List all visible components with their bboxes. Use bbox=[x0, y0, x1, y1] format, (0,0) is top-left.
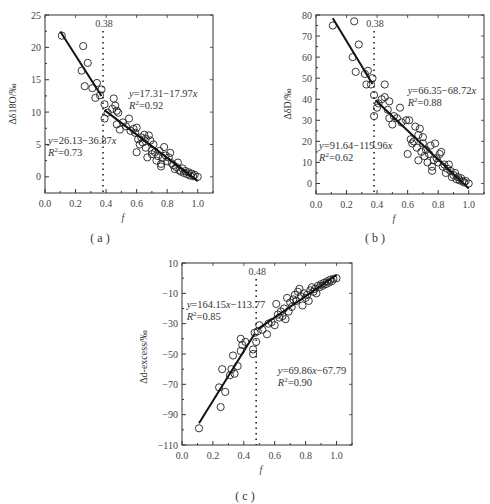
fit-equation: y=69.86x−67.79 bbox=[277, 365, 346, 376]
caption-b: ( b ) bbox=[365, 231, 385, 245]
fit-r-squared: R2=0.85 bbox=[186, 310, 221, 322]
fit-equation: y=17.31−17.97x bbox=[128, 88, 198, 99]
y-axis-label: ΔδD/‰ bbox=[282, 88, 293, 119]
chart-panel-b: 0.00.20.40.60.81.0f01020304050607080ΔδD/… bbox=[282, 10, 484, 225]
y-tick-label: 50 bbox=[302, 73, 312, 84]
x-tick-label: 0.4 bbox=[100, 198, 113, 209]
fit-line bbox=[105, 110, 198, 181]
x-tick-label: 0.8 bbox=[299, 450, 312, 461]
y-tick-label: 80 bbox=[302, 10, 312, 21]
y-tick-label: 10 bbox=[31, 107, 41, 118]
fit-line bbox=[258, 275, 337, 329]
y-tick-label: −50 bbox=[162, 349, 178, 360]
y-axis-label: Δδ18O/‰ bbox=[7, 83, 18, 124]
chart-panel-c: 0.00.20.40.60.81.0f−110−90−70−50−30−1010… bbox=[138, 258, 352, 476]
fit-r-squared: R2=0.92 bbox=[128, 99, 163, 111]
breakpoint-label: 0.38 bbox=[366, 18, 384, 29]
y-tick-label: 30 bbox=[302, 115, 312, 126]
y-tick-label: 25 bbox=[31, 10, 41, 21]
fit-equation: y=164.15x−113.77 bbox=[186, 299, 266, 310]
y-tick-label: 5 bbox=[36, 139, 41, 150]
x-tick-label: 0.2 bbox=[207, 450, 220, 461]
x-tick-label: 0.8 bbox=[432, 199, 445, 210]
x-tick-label: 0.6 bbox=[268, 450, 281, 461]
y-tick-label: 10 bbox=[168, 258, 178, 269]
x-tick-label: 1.0 bbox=[330, 450, 343, 461]
y-tick-label: −10 bbox=[162, 288, 178, 299]
y-tick-label: 0 bbox=[36, 171, 41, 182]
fit-equation: y=26.13−36.87x bbox=[47, 135, 117, 146]
breakpoint-label: 0.38 bbox=[95, 18, 113, 29]
y-axis: 01020304050607080ΔδD/‰ bbox=[282, 10, 484, 189]
figure-canvas: 0.00.20.40.60.81.0f0510152025Δδ18O/‰0.38… bbox=[0, 0, 490, 504]
y-axis-label: Δd-excess/‰ bbox=[138, 330, 149, 384]
y-tick-label: −90 bbox=[162, 409, 178, 420]
chart-panel-a: 0.00.20.40.60.81.0f0510152025Δδ18O/‰0.38… bbox=[7, 10, 213, 224]
x-tick-label: 1.0 bbox=[191, 198, 204, 209]
x-tick-label: 0.8 bbox=[161, 198, 174, 209]
y-tick-label: −70 bbox=[162, 379, 178, 390]
x-tick-label: 0.6 bbox=[130, 198, 143, 209]
breakpoint-label: 0.48 bbox=[248, 266, 266, 277]
x-tick-label: 0.0 bbox=[310, 199, 323, 210]
caption-c: ( c ) bbox=[235, 489, 254, 503]
fit-r-squared: R2=0.62 bbox=[318, 151, 353, 163]
fit-equation: y=66.35−68.72x bbox=[407, 85, 477, 96]
y-tick-label: 0 bbox=[307, 178, 312, 189]
x-tick-label: 0.2 bbox=[69, 198, 82, 209]
x-tick-label: 0.4 bbox=[238, 450, 251, 461]
y-tick-label: 60 bbox=[302, 52, 312, 63]
x-axis-label: f bbox=[122, 212, 126, 223]
x-tick-label: 0.6 bbox=[401, 199, 414, 210]
x-tick-label: 0.4 bbox=[371, 199, 384, 210]
plot-frame bbox=[182, 263, 352, 445]
x-tick-label: 0.2 bbox=[340, 199, 353, 210]
x-axis-label: f bbox=[260, 464, 264, 475]
y-tick-label: 70 bbox=[302, 31, 312, 42]
fit-r-squared: R2=0.73 bbox=[47, 146, 82, 158]
fit-line bbox=[199, 334, 255, 424]
x-tick-label: 0.0 bbox=[176, 450, 189, 461]
y-tick-label: 20 bbox=[31, 42, 41, 53]
x-tick-label: 1.0 bbox=[462, 199, 475, 210]
y-tick-label: −110 bbox=[158, 440, 178, 451]
y-tick-label: 40 bbox=[302, 94, 312, 105]
y-tick-label: −30 bbox=[162, 318, 178, 329]
y-tick-label: 20 bbox=[302, 136, 312, 147]
fit-r-squared: R2=0.90 bbox=[277, 376, 312, 388]
x-tick-label: 0.0 bbox=[39, 198, 52, 209]
fit-r-squared: R2=0.88 bbox=[407, 96, 442, 108]
x-axis-label: f bbox=[393, 213, 397, 224]
y-tick-label: 15 bbox=[31, 74, 41, 85]
y-tick-label: 10 bbox=[302, 157, 312, 168]
caption-a: ( a ) bbox=[90, 231, 109, 245]
fit-equation: y=91.64−119.96x bbox=[318, 140, 393, 151]
